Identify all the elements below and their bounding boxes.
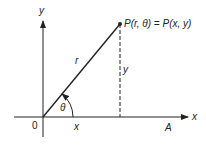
x-axis-label: x [192,112,197,122]
radius-label: r [75,56,78,66]
ray-label: A [165,123,172,133]
horizontal-segment-label: x [74,122,79,132]
origin-label: 0 [32,121,38,131]
angle-label: θ [60,103,65,113]
point-p [118,22,122,26]
point-label: P(r, θ) = P(x, y) [124,19,191,29]
y-axis-label: y [39,6,44,16]
radius-line [43,24,120,117]
vertical-segment-label: y [123,65,128,75]
